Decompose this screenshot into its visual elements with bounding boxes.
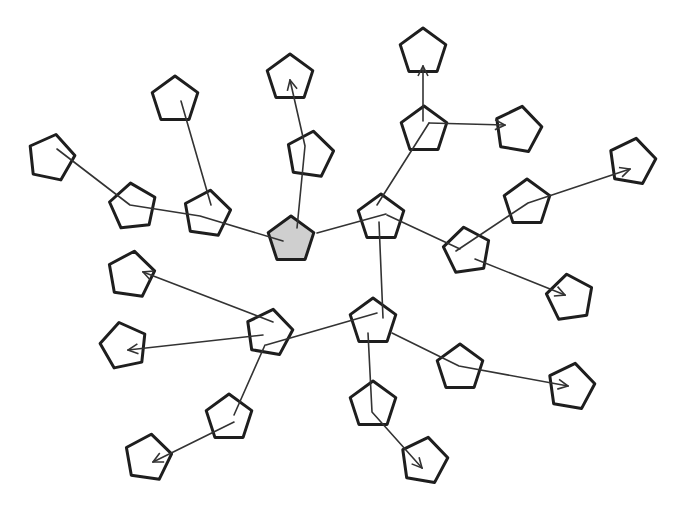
node-pentagon bbox=[288, 131, 333, 176]
directed-edge-arrow bbox=[429, 123, 505, 125]
node-pentagon bbox=[206, 394, 252, 437]
node-pentagon bbox=[100, 323, 145, 368]
root-node-pentagon bbox=[268, 216, 314, 259]
directed-edge-arrow bbox=[290, 80, 305, 228]
edge-line bbox=[181, 101, 211, 205]
node-pentagon bbox=[401, 106, 447, 149]
edge-line bbox=[377, 123, 429, 205]
node-pentagon bbox=[497, 106, 542, 151]
node-pentagon bbox=[611, 138, 656, 183]
edge-line bbox=[234, 345, 265, 415]
node-pentagon bbox=[152, 76, 198, 119]
nodes-layer bbox=[30, 28, 656, 483]
node-pentagon bbox=[550, 363, 595, 408]
directed-edge-arrow bbox=[153, 422, 234, 462]
node-pentagon bbox=[350, 298, 396, 341]
node-pentagon bbox=[403, 437, 448, 482]
edge-line bbox=[317, 214, 386, 233]
edges-layer bbox=[57, 66, 630, 468]
network-diagram bbox=[0, 0, 677, 515]
node-pentagon bbox=[350, 381, 396, 424]
node-pentagon bbox=[248, 309, 293, 354]
directed-edge-arrow bbox=[475, 259, 565, 295]
node-pentagon bbox=[546, 274, 591, 319]
directed-edge-arrow bbox=[128, 335, 263, 350]
edge-line bbox=[57, 149, 283, 241]
directed-edge-arrow bbox=[143, 272, 273, 322]
node-pentagon bbox=[504, 179, 550, 222]
node-pentagon bbox=[267, 54, 313, 97]
node-pentagon bbox=[400, 28, 446, 71]
